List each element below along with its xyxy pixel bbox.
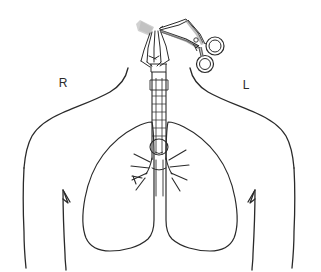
carina <box>146 158 172 196</box>
trachea-tube <box>150 64 168 160</box>
torso-outline <box>23 68 295 270</box>
illustration-canvas: R L <box>0 0 321 272</box>
anatomy-diagram: R L <box>0 0 321 272</box>
label-right-side: R <box>59 76 68 90</box>
surgical-forceps <box>159 19 224 73</box>
right-lung-outline <box>83 122 154 251</box>
retraction-sutures <box>141 30 169 67</box>
label-left-side: L <box>243 78 250 92</box>
bronchial-branches <box>131 150 189 191</box>
